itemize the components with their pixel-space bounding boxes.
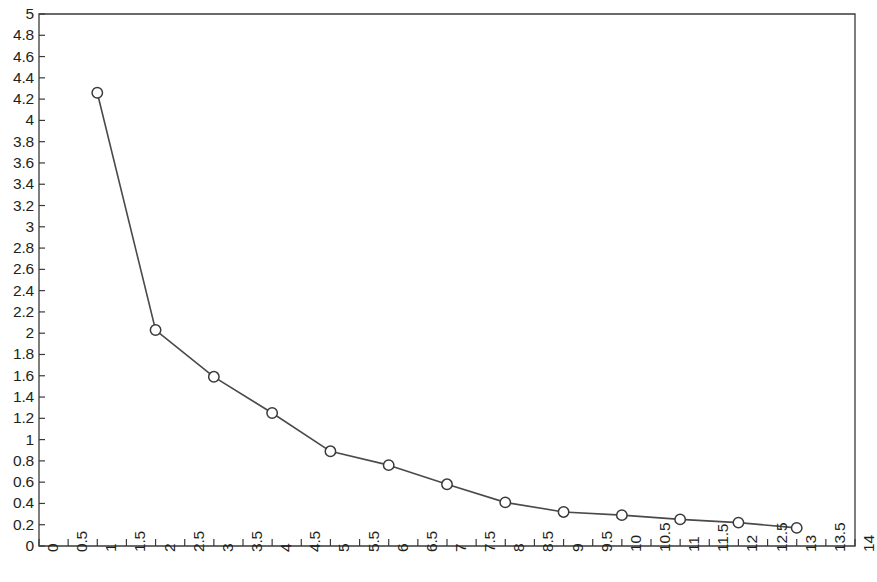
x-tick-label: 0 bbox=[45, 544, 61, 552]
x-tick-label: 11 bbox=[686, 536, 702, 552]
data-point-marker bbox=[267, 408, 277, 418]
x-tick-label: 10.5 bbox=[657, 523, 673, 552]
x-tick-label: 7 bbox=[453, 544, 469, 552]
x-tick-label: 3.5 bbox=[249, 531, 265, 552]
data-series-line bbox=[97, 93, 796, 528]
y-tick-label: 4.2 bbox=[13, 91, 34, 107]
data-point-marker bbox=[733, 517, 743, 527]
y-tick-label: 2.6 bbox=[13, 261, 34, 277]
y-tick-label: 1.2 bbox=[13, 410, 34, 426]
plot-axes bbox=[39, 14, 855, 546]
data-point-marker bbox=[617, 510, 627, 520]
x-tick-label: 9 bbox=[570, 544, 586, 552]
x-tick-label: 7.5 bbox=[482, 531, 498, 552]
y-tick-label: 0.6 bbox=[13, 474, 34, 490]
y-tick-label: 3 bbox=[26, 219, 34, 235]
data-point-marker bbox=[442, 479, 452, 489]
y-tick-label: 1 bbox=[26, 432, 34, 448]
y-tick-label: 0.4 bbox=[13, 495, 34, 511]
y-tick-label: 1.8 bbox=[13, 346, 34, 362]
x-tick-label: 12 bbox=[744, 535, 760, 552]
data-point-marker bbox=[92, 88, 102, 98]
data-point-marker bbox=[209, 372, 219, 382]
x-tick-label: 8 bbox=[511, 544, 527, 552]
x-tick-label: 0.5 bbox=[74, 531, 90, 552]
x-tick-label: 6 bbox=[395, 544, 411, 552]
x-tick-label: 10 bbox=[628, 535, 644, 552]
x-tick-label: 4.5 bbox=[307, 531, 323, 552]
y-tick-label: 4.4 bbox=[13, 70, 34, 86]
y-tick-label: 3.6 bbox=[13, 155, 34, 171]
x-tick-label: 9.5 bbox=[599, 531, 615, 552]
x-tick-label: 5.5 bbox=[366, 531, 382, 552]
y-tick-label: 1.4 bbox=[13, 389, 34, 405]
y-tick-label: 5 bbox=[26, 6, 34, 22]
data-point-marker bbox=[675, 514, 685, 524]
y-tick-label: 2.4 bbox=[13, 283, 34, 299]
data-point-marker bbox=[150, 325, 160, 335]
y-tick-label: 3.8 bbox=[13, 134, 34, 150]
y-tick-label: 0.8 bbox=[13, 453, 34, 469]
x-tick-label: 6.5 bbox=[424, 531, 440, 552]
data-point-marker bbox=[325, 446, 335, 456]
x-tick-label: 2 bbox=[162, 544, 178, 552]
x-tick-label: 4 bbox=[278, 544, 294, 552]
x-tick-label: 5 bbox=[336, 544, 352, 552]
y-tick-label: 1.6 bbox=[13, 368, 34, 384]
y-tick-label: 0 bbox=[26, 538, 34, 554]
x-tick-label: 1.5 bbox=[132, 531, 148, 552]
y-tick-label: 4.6 bbox=[13, 49, 34, 65]
data-point-marker bbox=[384, 460, 394, 470]
x-tick-label: 12.5 bbox=[774, 523, 790, 552]
x-tick-label: 8.5 bbox=[540, 531, 556, 552]
x-tick-label: 2.5 bbox=[191, 531, 207, 552]
y-tick-label: 4 bbox=[26, 112, 34, 128]
y-tick-label: 0.2 bbox=[13, 517, 34, 533]
y-tick-label: 3.4 bbox=[13, 176, 34, 192]
x-tick-label: 1 bbox=[103, 544, 119, 552]
data-point-marker bbox=[792, 523, 802, 533]
x-tick-label: 13.5 bbox=[832, 523, 848, 552]
x-tick-label: 11.5 bbox=[715, 524, 731, 552]
x-tick-label: 3 bbox=[220, 544, 236, 552]
axis-ticks bbox=[39, 14, 855, 546]
y-tick-label: 2.2 bbox=[13, 304, 34, 320]
y-tick-label: 4.8 bbox=[13, 27, 34, 43]
x-tick-label: 14 bbox=[861, 535, 877, 552]
data-point-marker bbox=[500, 497, 510, 507]
x-tick-label: 13 bbox=[803, 535, 819, 552]
data-point-markers bbox=[92, 88, 802, 534]
y-tick-label: 2.8 bbox=[13, 240, 34, 256]
y-tick-label: 3.2 bbox=[13, 198, 34, 214]
data-point-marker bbox=[558, 507, 568, 517]
y-tick-label: 2 bbox=[26, 325, 34, 341]
